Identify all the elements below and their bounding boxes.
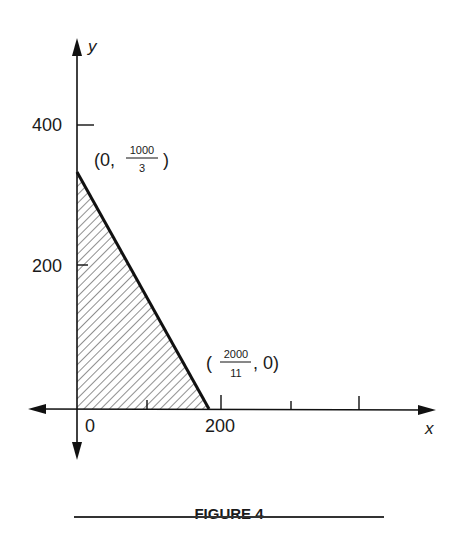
svg-text:(: (	[206, 353, 212, 373]
y-tick-label-200: 200	[32, 256, 62, 276]
x-axis-label: x	[424, 419, 434, 438]
x-axis-right-arrow-icon	[418, 405, 436, 415]
y-axis-down-arrow-icon	[72, 442, 82, 460]
y-axis-up-arrow-icon	[72, 38, 82, 56]
x-tick-label-200: 200	[205, 416, 235, 436]
figure-caption: FIGURE 4	[0, 505, 458, 522]
x-axis	[36, 409, 428, 410]
svg-text:2000: 2000	[224, 348, 248, 360]
svg-text:1000: 1000	[130, 144, 154, 156]
svg-text:, 0): , 0)	[253, 353, 279, 373]
svg-text:11: 11	[230, 367, 241, 379]
y-tick-label-400: 400	[32, 115, 62, 135]
x-axis-left-arrow-icon	[28, 404, 46, 414]
vertex-label-right: ( 2000 11 , 0)	[206, 348, 279, 379]
figure-canvas: y x 400 200 0 200 (0, 1000 3 ) ( 2000 11…	[0, 0, 458, 538]
vertex-label-top: (0, 1000 3 )	[94, 144, 169, 174]
caption-rule	[74, 516, 384, 518]
svg-text:3: 3	[139, 162, 145, 174]
x-tick-label-0: 0	[85, 416, 95, 436]
svg-text:(0,: (0,	[94, 150, 115, 170]
y-axis-label: y	[87, 37, 98, 56]
svg-text:): )	[163, 150, 169, 170]
